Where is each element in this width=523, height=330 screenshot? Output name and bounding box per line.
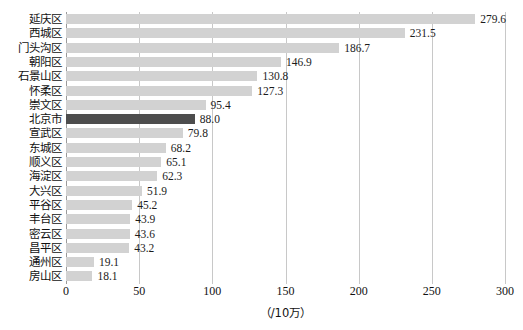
bar [66, 28, 405, 38]
bar-row: 95.4 [66, 98, 505, 112]
category-label: 顺义区 [0, 155, 62, 169]
x-tick-label: 300 [496, 284, 514, 299]
bar-value-label: 79.8 [188, 126, 208, 140]
x-axis-unit-label: （/10万） [66, 304, 505, 320]
bar-value-label: 186.7 [344, 41, 370, 55]
category-label: 崇文区 [0, 98, 62, 112]
bar-row: 146.9 [66, 55, 505, 69]
bar-value-label: 65.1 [166, 155, 186, 169]
bar-value-label: 43.9 [135, 212, 155, 226]
bar-row: 130.8 [66, 69, 505, 83]
category-label: 昌平区 [0, 241, 62, 255]
bar [66, 128, 183, 138]
category-label: 西城区 [0, 26, 62, 40]
bar-value-label: 88.0 [200, 112, 220, 126]
bar-row: 43.2 [66, 241, 505, 255]
category-label: 怀柔区 [0, 84, 62, 98]
bar-row: 43.6 [66, 227, 505, 241]
category-label: 延庆区 [0, 12, 62, 26]
bar-row: 186.7 [66, 41, 505, 55]
bar [66, 200, 132, 210]
bar-row: 45.2 [66, 198, 505, 212]
bar-value-label: 62.3 [162, 169, 182, 183]
x-axis-ticks: 050100150200250300 [66, 284, 505, 304]
bar-row: 62.3 [66, 169, 505, 183]
bar-value-label: 231.5 [410, 26, 436, 40]
bar-value-label: 279.6 [480, 12, 506, 26]
bar [66, 171, 157, 181]
bar [66, 243, 129, 253]
bar-row: 43.9 [66, 212, 505, 226]
bar-row: 18.1 [66, 269, 505, 283]
category-label: 房山区 [0, 269, 62, 283]
bar [66, 186, 142, 196]
plot-area: 279.6231.5186.7146.9130.8127.395.488.079… [66, 12, 505, 284]
category-label: 密云区 [0, 227, 62, 241]
bar-row: 88.0 [66, 112, 505, 126]
bar-row: 279.6 [66, 12, 505, 26]
bar [66, 229, 130, 239]
bar-value-label: 43.2 [134, 241, 154, 255]
category-label: 东城区 [0, 141, 62, 155]
x-tick-label: 250 [423, 284, 441, 299]
bar [66, 71, 257, 81]
bar-row: 127.3 [66, 84, 505, 98]
category-label: 大兴区 [0, 184, 62, 198]
bar [66, 43, 339, 53]
bar [66, 257, 94, 267]
bar-value-label: 127.3 [257, 84, 283, 98]
category-label: 丰台区 [0, 212, 62, 226]
bar-value-label: 146.9 [286, 55, 312, 69]
bar-chart: 延庆区西城区门头沟区朝阳区石景山区怀柔区崇文区北京市宣武区东城区顺义区海淀区大兴… [0, 0, 523, 330]
bar [66, 214, 130, 224]
bar-value-label: 18.1 [97, 269, 117, 283]
gridline-300 [505, 12, 506, 284]
bar [66, 143, 166, 153]
bar-row: 65.1 [66, 155, 505, 169]
bar [66, 86, 252, 96]
bar [66, 157, 161, 167]
category-label: 门头沟区 [0, 41, 62, 55]
category-label: 石景山区 [0, 69, 62, 83]
bar [66, 271, 92, 281]
category-label: 北京市 [0, 112, 62, 126]
x-tick-label: 150 [277, 284, 295, 299]
category-label: 通州区 [0, 255, 62, 269]
bar-row: 51.9 [66, 184, 505, 198]
bar-value-label: 19.1 [99, 255, 119, 269]
bar-highlighted [66, 114, 195, 124]
bar-value-label: 45.2 [137, 198, 157, 212]
category-label: 朝阳区 [0, 55, 62, 69]
bar-value-label: 68.2 [171, 141, 191, 155]
x-tick-label: 100 [203, 284, 221, 299]
bar-value-label: 43.6 [135, 227, 155, 241]
bar [66, 14, 475, 24]
bar-row: 19.1 [66, 255, 505, 269]
category-label: 海淀区 [0, 169, 62, 183]
bar-row: 231.5 [66, 26, 505, 40]
x-tick-label: 200 [350, 284, 368, 299]
bar-value-label: 130.8 [262, 69, 288, 83]
category-axis-labels: 延庆区西城区门头沟区朝阳区石景山区怀柔区崇文区北京市宣武区东城区顺义区海淀区大兴… [0, 12, 62, 284]
bar-row: 79.8 [66, 126, 505, 140]
bar-value-label: 95.4 [211, 98, 231, 112]
bar-row: 68.2 [66, 141, 505, 155]
bar-value-label: 51.9 [147, 184, 167, 198]
x-tick-label: 50 [133, 284, 145, 299]
x-tick-label: 0 [63, 284, 69, 299]
bar [66, 57, 281, 67]
category-label: 平谷区 [0, 198, 62, 212]
bar [66, 100, 206, 110]
category-label: 宣武区 [0, 126, 62, 140]
